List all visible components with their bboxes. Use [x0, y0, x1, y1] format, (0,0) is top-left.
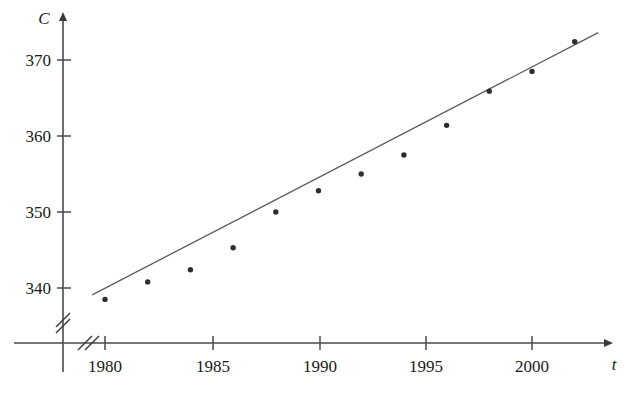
y-tick-label-360: 360	[26, 127, 52, 146]
data-point	[273, 209, 278, 214]
data-point	[529, 69, 534, 74]
data-point-group	[102, 39, 577, 302]
data-point	[316, 188, 321, 193]
y-axis-title: C	[38, 9, 50, 28]
data-point	[487, 88, 492, 93]
x-tick-label-1995: 1995	[409, 357, 443, 376]
data-point	[188, 267, 193, 272]
data-point	[102, 297, 107, 302]
regression-line	[92, 33, 598, 295]
y-tick-label-350: 350	[26, 203, 52, 222]
data-point	[145, 279, 150, 284]
x-tick-label-2000: 2000	[515, 357, 549, 376]
x-tick-label-1985: 1985	[196, 357, 230, 376]
data-point	[359, 171, 364, 176]
x-tick-label-1990: 1990	[303, 357, 337, 376]
chart-container: 340 350 360 370 1980 1985 1990 1995 2000…	[0, 0, 628, 399]
data-point	[572, 39, 577, 44]
y-tick-label-340: 340	[26, 279, 52, 298]
data-point	[444, 123, 449, 128]
y-axis-ticks	[57, 60, 71, 288]
data-point	[401, 152, 406, 157]
data-point	[230, 245, 235, 250]
scatter-plot: 340 350 360 370 1980 1985 1990 1995 2000…	[0, 0, 628, 399]
x-tick-label-1980: 1980	[88, 357, 122, 376]
x-axis-title: t	[612, 355, 618, 374]
y-tick-label-370: 370	[26, 51, 52, 70]
